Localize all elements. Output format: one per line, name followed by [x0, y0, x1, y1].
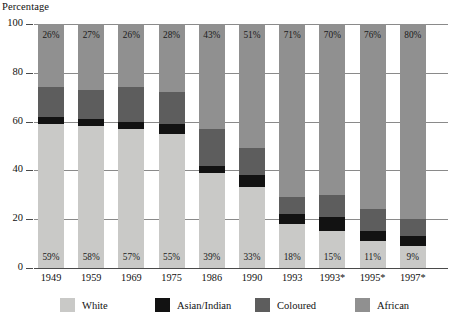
bar-1959: 27%58% — [78, 24, 104, 268]
legend-swatch-icon — [155, 298, 170, 312]
x-axis-tick-label: 1949 — [28, 272, 74, 283]
bar-label-bottom: 18% — [279, 253, 305, 262]
bar-segment-asian-indian — [199, 166, 225, 173]
bar-label-bottom: 33% — [239, 253, 265, 262]
bar-segment-coloured — [319, 195, 345, 217]
bar-segment-coloured — [239, 148, 265, 175]
bar-label-bottom: 39% — [199, 253, 225, 262]
bar-segment-coloured — [279, 197, 305, 214]
bar-segment-asian-indian — [159, 124, 185, 134]
y-axis-tick-label: 0 — [0, 261, 23, 272]
bar-segment-asian-indian — [78, 119, 104, 126]
bar-segment-white — [159, 134, 185, 268]
bar-label-top: 43% — [199, 31, 225, 40]
x-axis-tick-label: 1997* — [390, 272, 436, 283]
bar-label-top: 70% — [319, 31, 345, 40]
bar-segment-african — [279, 24, 305, 197]
y-axis-tick-label: 100 — [0, 17, 23, 28]
bar-segment-asian-indian — [118, 122, 144, 129]
x-axis-tick-label: 1993* — [309, 272, 355, 283]
y-axis-tick-label: 40 — [0, 163, 23, 174]
legend-item-white: White — [60, 296, 108, 314]
legend-item-african: African — [355, 296, 409, 314]
bar-1993-star: 70%15% — [319, 24, 345, 268]
legend-swatch-icon — [355, 298, 370, 312]
y-axis-tick-label: 80 — [0, 66, 23, 77]
bar-1997-star: 80%9% — [400, 24, 426, 268]
bar-segment-asian-indian — [279, 214, 305, 224]
x-axis-tick-label: 1986 — [189, 272, 235, 283]
bar-1995-star: 76%11% — [360, 24, 386, 268]
y-axis-tick — [26, 268, 33, 269]
bar-label-top: 27% — [78, 31, 104, 40]
bar-1949: 26%59% — [38, 24, 64, 268]
y-axis-tick — [26, 73, 33, 74]
y-axis-tick-label: 20 — [0, 212, 23, 223]
bar-label-top: 26% — [38, 31, 64, 40]
bar-segment-coloured — [118, 87, 144, 121]
chart-legend: WhiteAsian/IndianColouredAfrican — [0, 296, 452, 318]
y-axis-tick — [26, 170, 33, 171]
x-axis-tick-label: 1975 — [149, 272, 195, 283]
bar-segment-coloured — [360, 209, 386, 231]
bar-segment-asian-indian — [319, 217, 345, 232]
bar-label-bottom: 9% — [400, 253, 426, 262]
x-axis-tick-label: 1995* — [350, 272, 396, 283]
y-axis-tick — [26, 219, 33, 220]
bar-segment-white — [38, 124, 64, 268]
bar-label-bottom: 55% — [159, 253, 185, 262]
bar-segment-white — [118, 129, 144, 268]
x-axis-tick-label: 1993 — [269, 272, 315, 283]
bar-1975: 28%55% — [159, 24, 185, 268]
bar-segment-african — [400, 24, 426, 219]
x-axis-line — [34, 268, 448, 269]
bar-segment-asian-indian — [239, 175, 265, 187]
bar-segment-coloured — [400, 219, 426, 236]
legend-swatch-icon — [60, 298, 75, 312]
legend-label: Asian/Indian — [177, 300, 231, 311]
bar-label-top: 80% — [400, 31, 426, 40]
bar-label-bottom: 57% — [118, 253, 144, 262]
bar-label-top: 76% — [360, 31, 386, 40]
bar-segment-coloured — [78, 90, 104, 119]
bar-segment-white — [319, 231, 345, 268]
legend-label: African — [377, 300, 409, 311]
bar-label-top: 71% — [279, 31, 305, 40]
bar-label-bottom: 58% — [78, 253, 104, 262]
bar-label-bottom: 59% — [38, 253, 64, 262]
legend-item-asian-indian: Asian/Indian — [155, 296, 231, 314]
bar-segment-coloured — [199, 129, 225, 166]
y-axis-tick — [26, 24, 33, 25]
x-axis-tick-label: 1990 — [229, 272, 275, 283]
legend-swatch-icon — [255, 298, 270, 312]
bar-label-bottom: 11% — [360, 253, 386, 262]
bar-label-top: 28% — [159, 31, 185, 40]
legend-item-coloured: Coloured — [255, 296, 316, 314]
stacked-bar-chart: Percentage 26%59%27%58%26%57%28%55%43%39… — [0, 0, 452, 321]
y-axis-tick-label: 60 — [0, 115, 23, 126]
x-axis-tick-label: 1969 — [108, 272, 154, 283]
bar-segment-african — [319, 24, 345, 195]
bar-segment-african — [239, 24, 265, 148]
bar-segment-coloured — [38, 87, 64, 116]
bar-1993: 71%18% — [279, 24, 305, 268]
bar-segment-white — [78, 126, 104, 268]
bar-segment-african — [360, 24, 386, 209]
y-axis-tick — [26, 122, 33, 123]
bar-1986: 43%39% — [199, 24, 225, 268]
plot-area: 26%59%27%58%26%57%28%55%43%39%51%33%71%1… — [34, 24, 448, 268]
x-axis-tick-label: 1959 — [68, 272, 114, 283]
bar-label-top: 26% — [118, 31, 144, 40]
bar-label-bottom: 15% — [319, 253, 345, 262]
bar-label-top: 51% — [239, 31, 265, 40]
bar-1969: 26%57% — [118, 24, 144, 268]
bar-segment-coloured — [159, 92, 185, 124]
bar-segment-asian-indian — [400, 236, 426, 246]
bar-segment-asian-indian — [360, 231, 386, 241]
legend-label: White — [82, 300, 108, 311]
y-axis-title: Percentage — [2, 1, 49, 12]
bar-1990: 51%33% — [239, 24, 265, 268]
legend-label: Coloured — [277, 300, 316, 311]
bar-segment-asian-indian — [38, 117, 64, 124]
